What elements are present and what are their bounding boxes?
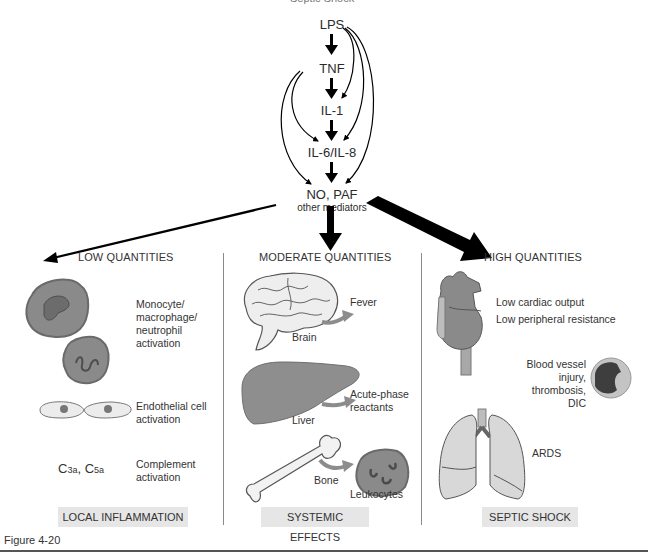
lungs-icon [434,405,530,505]
label-line: Acute-phase [350,388,409,401]
column-title-low: LOW QUANTITIES [78,251,174,263]
label-line: Complement [136,458,196,471]
separator: , [77,461,84,476]
label-line: Low cardiac output [496,294,616,311]
label-line: reactants [350,401,409,414]
high-item-3-label: ARDS [532,447,561,460]
label-line: activation [136,413,207,426]
effect-leukocytes: Leukocytes [350,488,403,501]
column-divider-right [421,253,422,525]
low-item-3-label: Complement activation [136,458,196,484]
effect-acute-phase: Acute-phase reactants [350,388,409,414]
footer-systemic-effects: SYSTEMIC EFFECTS [261,507,369,527]
column-title-high: HIGH QUANTITIES [484,251,582,263]
figure-label: Figure 4-20 [4,534,60,546]
organ-liver-label: Liver [292,414,315,427]
label-line: Blood vessel [520,358,586,371]
label-line: Monocyte/ [136,298,197,311]
c3-letter: C [58,461,67,476]
figure-rule [0,550,648,552]
c5-letter: C [85,461,94,476]
high-item-2-label: Blood vessel injury, thrombosis, DIC [520,358,586,410]
label-line: neutrophil [136,324,197,337]
endothelial-cells-icon [36,397,136,423]
label-line: activation [136,471,196,484]
blood-vessel-icon [589,356,633,400]
c5-sub: 5a [94,465,104,475]
leukocyte-cells-icon [18,275,128,395]
label-line: injury, [520,371,586,384]
low-item-1-label: Monocyte/ macrophage/ neutrophil activat… [136,298,197,350]
label-line: thrombosis, [520,384,586,397]
column-divider-left [223,253,224,525]
low-item-2-label: Endothelial cell activation [136,400,207,426]
heart-icon [435,267,495,377]
c3-sub: 3a [67,465,77,475]
high-item-1-label: Low cardiac output Low peripheral resist… [496,294,616,328]
effect-arrow-icon [318,456,358,476]
curved-arrow-icon [281,27,373,184]
complement-symbol: C3a, C5a [58,461,104,476]
cascade-arrows [0,0,648,280]
moderate-quantity-arrow-icon [319,206,342,251]
footer-local-inflammation: LOCAL INFLAMMATION [58,507,188,527]
effect-fever: Fever [350,296,377,309]
label-line: Low peripheral resistance [496,311,616,328]
label-line: activation [136,337,197,350]
label-line: macrophage/ [136,311,197,324]
footer-septic-shock: SEPTIC SHOCK [482,507,578,527]
column-title-moderate: MODERATE QUANTITIES [259,251,391,263]
down-arrow-icon [325,34,338,183]
organ-brain-label: Brain [292,331,317,344]
label-line: Endothelial cell [136,400,207,413]
organ-bone-label: Bone [314,474,339,487]
